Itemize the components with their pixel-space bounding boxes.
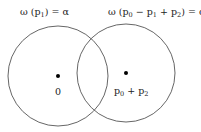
- left-circle-title: ω (p1) = α: [20, 6, 69, 19]
- right-center-label: p0 + p2: [114, 85, 148, 98]
- left-center-dot: [56, 74, 60, 78]
- right-circle-title: ω (p0 − p1 + p2) = α: [108, 6, 201, 19]
- right-center-dot: [124, 71, 128, 75]
- venn-diagram: ω (p1) = α ω (p0 − p1 + p2) = α 0 p0 + p…: [0, 0, 201, 132]
- left-center-label: 0: [55, 86, 61, 97]
